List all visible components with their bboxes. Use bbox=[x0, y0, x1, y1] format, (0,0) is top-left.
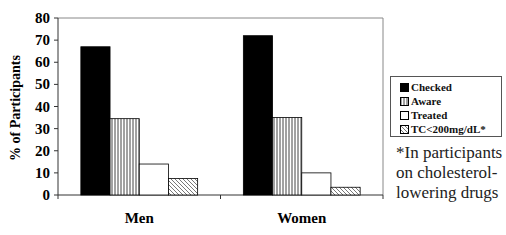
bar-vertical-lines bbox=[110, 119, 139, 195]
y-tick-label: 20 bbox=[35, 143, 50, 159]
y-tick-label: 0 bbox=[43, 187, 51, 203]
legend-swatch-icon bbox=[400, 125, 409, 134]
legend-item: TC<200mg/dL* bbox=[400, 122, 501, 136]
y-tick-label: 40 bbox=[35, 99, 50, 115]
legend-item: Aware bbox=[400, 94, 501, 108]
bar-vertical-lines bbox=[273, 118, 302, 195]
y-tick-label: 80 bbox=[35, 10, 50, 26]
legend-swatch-icon bbox=[400, 83, 409, 92]
legend-label: Aware bbox=[411, 95, 441, 107]
y-tick-label: 60 bbox=[35, 54, 50, 70]
y-axis-label: % of Participants bbox=[8, 55, 23, 161]
legend-item: Checked bbox=[400, 80, 501, 94]
y-tick-label: 50 bbox=[35, 76, 50, 92]
legend-item: Treated bbox=[400, 108, 501, 122]
bar-solid-black bbox=[243, 36, 272, 195]
category-label: Men bbox=[125, 210, 155, 226]
y-tick-label: 30 bbox=[35, 121, 50, 137]
bar-diagonal-lines bbox=[168, 178, 197, 195]
bar-white bbox=[139, 164, 168, 195]
category-label: Women bbox=[277, 210, 327, 226]
legend-swatch-icon bbox=[400, 97, 409, 106]
footnote: *In participants on cholesterol-lowering… bbox=[396, 143, 506, 203]
legend-label: TC<200mg/dL* bbox=[411, 123, 486, 135]
legend: CheckedAwareTreatedTC<200mg/dL* bbox=[390, 76, 502, 137]
bar-white bbox=[302, 173, 331, 195]
bar-solid-black bbox=[81, 47, 110, 195]
y-tick-label: 70 bbox=[35, 32, 50, 48]
legend-swatch-icon bbox=[400, 111, 409, 120]
plot-area: 01020304050607080MenWomen bbox=[35, 10, 383, 226]
legend-label: Treated bbox=[411, 109, 447, 121]
bar-diagonal-lines bbox=[331, 187, 360, 195]
y-tick-label: 10 bbox=[35, 165, 50, 181]
legend-label: Checked bbox=[411, 81, 452, 93]
